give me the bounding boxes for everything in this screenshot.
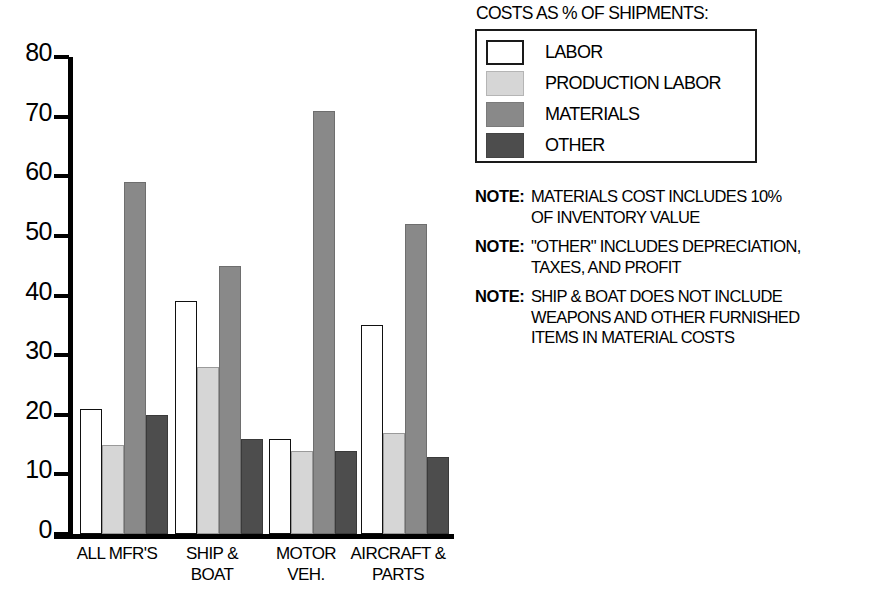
bar — [175, 301, 197, 534]
notes-list: NOTE:MATERIALS COST INCLUDES 10%OF INVEN… — [475, 186, 875, 357]
bar-group — [361, 57, 449, 534]
y-axis-tick — [54, 472, 69, 476]
note-line: WEAPONS AND OTHER FURNISHED — [531, 307, 875, 328]
y-axis-tick-label: 50 — [0, 219, 52, 244]
note-row: NOTE:SHIP & BOAT DOES NOT INCLUDEWEAPONS… — [475, 286, 875, 348]
note-body: MATERIALS COST INCLUDES 10%OF INVENTORY … — [531, 186, 875, 227]
bar — [146, 415, 168, 534]
note-line: OF INVENTORY VALUE — [531, 207, 875, 228]
legend-swatch-icon — [486, 40, 524, 65]
note-line: MATERIALS COST INCLUDES 10% — [531, 186, 875, 207]
legend-item-label: PRODUCTION LABOR — [545, 73, 721, 93]
legend-item-materials[interactable]: MATERIALS — [486, 101, 639, 127]
legend-swatch-icon — [486, 133, 524, 158]
legend-swatch-icon — [486, 71, 524, 96]
note-tag: NOTE: — [475, 286, 531, 307]
bar — [313, 111, 335, 534]
legend-box: LABORPRODUCTION LABORMATERIALSOTHER — [475, 29, 757, 163]
y-axis-tick-label: 70 — [0, 100, 52, 125]
y-axis-tick — [54, 413, 69, 417]
y-axis-tick-label-text: 50 — [6, 219, 52, 244]
y-axis-tick-label: 30 — [0, 338, 52, 363]
note-tag: NOTE: — [475, 236, 531, 257]
legend-item-label: LABOR — [545, 42, 603, 62]
bar — [80, 409, 102, 534]
y-axis-tick — [54, 294, 69, 298]
bar — [269, 439, 291, 534]
legend-item-label: OTHER — [545, 135, 605, 155]
y-axis-tick-label-text: 30 — [6, 338, 52, 363]
y-axis-tick-label-text: 40 — [6, 279, 52, 304]
bar-group — [80, 57, 168, 534]
note-line: "OTHER" INCLUDES DEPRECIATION, — [531, 236, 875, 257]
y-axis-tick-label-text: 0 — [6, 517, 52, 542]
y-axis-tick — [54, 55, 69, 59]
bar-group — [269, 57, 357, 534]
note-tag: NOTE: — [475, 186, 531, 207]
y-axis-tick-label-text: 10 — [6, 457, 52, 482]
y-axis-tick-label: 60 — [0, 159, 52, 184]
legend-item-other[interactable]: OTHER — [486, 132, 605, 158]
legend-item-labor[interactable]: LABOR — [486, 39, 603, 65]
bar — [427, 457, 449, 535]
x-axis-category-label: AIRCRAFT &PARTS — [333, 543, 463, 585]
y-axis-tick-label: 10 — [0, 457, 52, 482]
legend-swatch-icon — [486, 102, 524, 127]
y-axis-tick-label: 40 — [0, 279, 52, 304]
x-axis-line — [54, 534, 454, 539]
y-axis-tick-label-text: 70 — [6, 100, 52, 125]
bar — [219, 266, 241, 534]
y-axis-tick — [54, 174, 69, 178]
y-axis-tick — [54, 115, 69, 119]
note-row: NOTE:MATERIALS COST INCLUDES 10%OF INVEN… — [475, 186, 875, 227]
bar — [405, 224, 427, 534]
y-axis-tick-label: 20 — [0, 398, 52, 423]
x-axis-category-label-line: PARTS — [333, 564, 463, 585]
y-axis-tick — [54, 532, 69, 536]
y-axis-tick-label-text: 60 — [6, 159, 52, 184]
y-axis-tick-label-text: 20 — [6, 398, 52, 423]
y-axis-tick — [54, 234, 69, 238]
legend-and-notes-panel: COSTS AS % OF SHIPMENTS: LABORPRODUCTION… — [470, 0, 876, 608]
plot-area — [73, 57, 454, 534]
bar — [102, 445, 124, 534]
bar — [361, 325, 383, 534]
note-line: SHIP & BOAT DOES NOT INCLUDE — [531, 286, 875, 307]
legend-item-prodlabor[interactable]: PRODUCTION LABOR — [486, 70, 721, 96]
note-body: SHIP & BOAT DOES NOT INCLUDEWEAPONS AND … — [531, 286, 875, 348]
bar — [124, 182, 146, 534]
note-line: TAXES, AND PROFIT — [531, 257, 875, 278]
y-axis-tick-label: 80 — [0, 40, 52, 65]
note-body: "OTHER" INCLUDES DEPRECIATION,TAXES, AND… — [531, 236, 875, 277]
bar — [383, 433, 405, 534]
bar — [335, 451, 357, 534]
y-axis-tick-label-text: 80 — [6, 40, 52, 65]
bar-chart: 01020304050607080 ALL MFR'SSHIP &BOATMOT… — [0, 0, 470, 608]
legend-item-label: MATERIALS — [545, 104, 639, 124]
x-axis-category-label-line: AIRCRAFT & — [333, 543, 463, 564]
bar — [197, 367, 219, 534]
legend-title: COSTS AS % OF SHIPMENTS: — [476, 3, 708, 23]
y-axis-tick-label: 0 — [0, 517, 52, 542]
bar — [241, 439, 263, 534]
bar-group — [175, 57, 263, 534]
bar — [291, 451, 313, 534]
y-axis-tick — [54, 353, 69, 357]
note-line: ITEMS IN MATERIAL COSTS — [531, 327, 875, 348]
note-row: NOTE:"OTHER" INCLUDES DEPRECIATION,TAXES… — [475, 236, 875, 277]
